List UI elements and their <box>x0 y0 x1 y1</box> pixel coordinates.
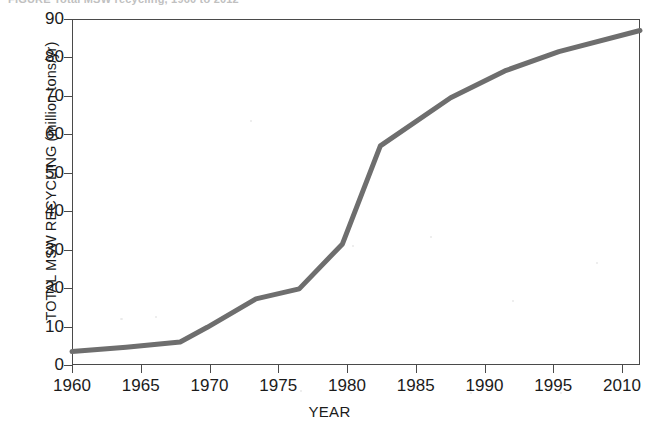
x-tick-label: 1980 <box>312 376 382 395</box>
y-tick-label: 0 <box>30 356 64 373</box>
y-tick-label: 60 <box>30 125 64 142</box>
y-tick-label: 50 <box>30 164 64 181</box>
plot-area <box>72 19 640 365</box>
y-tick-mark <box>64 134 72 135</box>
x-tick-mark <box>347 365 348 373</box>
x-tick-label: 1960 <box>37 376 107 395</box>
y-tick-mark <box>64 327 72 328</box>
y-axis-tick-labels: 0102030405060708090 <box>22 19 64 365</box>
y-tick-mark <box>64 211 72 212</box>
x-tick-mark <box>416 365 417 373</box>
x-tick-mark <box>622 365 623 373</box>
figure-container: FIGURE Total MSW recycling, 1960 to 2012… <box>0 0 659 434</box>
y-tick-mark <box>64 96 72 97</box>
scan-speckle <box>352 245 354 247</box>
data-series-line <box>72 31 640 352</box>
x-tick-label: 1965 <box>106 376 176 395</box>
y-tick-mark <box>64 288 72 289</box>
y-tick-mark <box>64 57 72 58</box>
y-tick-label: 20 <box>30 279 64 296</box>
y-tick-mark <box>64 19 72 20</box>
x-tick-label: 1990 <box>450 376 520 395</box>
scan-speckle <box>512 300 514 302</box>
y-tick-mark <box>64 250 72 251</box>
scan-speckle <box>596 262 598 264</box>
y-tick-label: 70 <box>30 87 64 104</box>
x-tick-label: 1995 <box>518 376 588 395</box>
y-tick-label: 40 <box>30 202 64 219</box>
x-tick-mark <box>210 365 211 373</box>
x-tick-mark <box>72 365 73 373</box>
scan-speckle <box>470 392 472 394</box>
y-tick-label: 30 <box>30 241 64 258</box>
x-tick-mark <box>553 365 554 373</box>
scan-speckle <box>560 392 562 394</box>
y-tick-mark <box>64 365 72 366</box>
y-tick-label: 80 <box>30 48 64 65</box>
y-tick-mark <box>64 173 72 174</box>
x-axis-title: YEAR <box>0 403 659 420</box>
x-tick-label: 2010 <box>587 376 657 395</box>
x-tick-mark <box>278 365 279 373</box>
x-tick-label: 1985 <box>381 376 451 395</box>
scan-speckle <box>120 318 123 320</box>
scan-speckle <box>430 236 432 238</box>
scan-speckle <box>250 120 252 122</box>
scan-speckle <box>300 390 302 392</box>
x-tick-label: 1975 <box>243 376 313 395</box>
y-tick-label: 10 <box>30 318 64 335</box>
x-tick-label: 1970 <box>175 376 245 395</box>
y-tick-label: 90 <box>30 10 64 27</box>
x-tick-mark <box>141 365 142 373</box>
scan-speckle <box>155 316 157 318</box>
x-tick-mark <box>485 365 486 373</box>
cropped-caption-sliver: FIGURE Total MSW recycling, 1960 to 2012 <box>8 0 428 5</box>
